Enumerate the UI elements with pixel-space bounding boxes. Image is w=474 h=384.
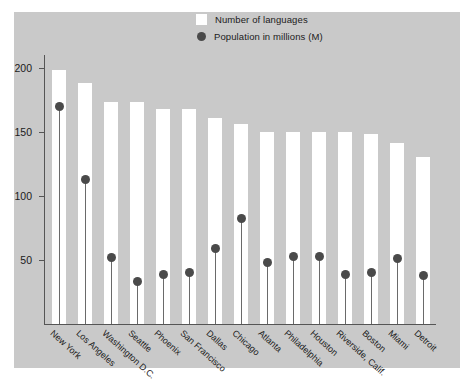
chart-legend: Number of languages Population in millio… (196, 14, 323, 42)
population-dot (107, 253, 116, 262)
population-dot (315, 252, 324, 261)
population-stem (137, 282, 138, 324)
population-dot (263, 258, 272, 267)
y-axis-tick-label: 150 (14, 126, 32, 138)
legend-label-population: Population in millions (M) (214, 31, 323, 42)
legend-dot-icon (197, 32, 206, 41)
chart-root: Number of languages Population in millio… (0, 0, 474, 384)
population-dot (185, 268, 194, 277)
population-stem (345, 274, 346, 324)
y-axis-tick-label: 100 (14, 190, 32, 202)
population-stem (111, 257, 112, 324)
population-stem (163, 274, 164, 324)
population-dot (237, 214, 246, 223)
population-stem (371, 273, 372, 324)
y-axis-tick (39, 68, 45, 69)
y-axis-line (44, 55, 45, 325)
legend-swatch-icon (196, 14, 207, 25)
population-dot (367, 268, 376, 277)
population-dot (341, 270, 350, 279)
population-dot (419, 271, 428, 280)
y-axis-tick-label: 50 (20, 254, 32, 266)
population-stem (241, 219, 242, 324)
y-axis-tick (39, 196, 45, 197)
population-stem (293, 256, 294, 324)
population-stem (85, 179, 86, 324)
population-dot (81, 175, 90, 184)
y-axis-tick-label: 200 (14, 62, 32, 74)
plot-area: 50100150200New YorkLos AngelesWashington… (46, 55, 436, 324)
legend-label-languages: Number of languages (215, 14, 308, 25)
population-stem (267, 263, 268, 324)
population-stem (215, 248, 216, 324)
population-stem (189, 273, 190, 324)
population-dot (55, 102, 64, 111)
legend-item-population: Population in millions (M) (196, 31, 323, 42)
population-stem (319, 256, 320, 324)
population-dot (133, 277, 142, 286)
population-dot (289, 252, 298, 261)
population-dot (159, 270, 168, 279)
population-stem (59, 106, 60, 324)
y-axis-tick (39, 132, 45, 133)
population-dot (393, 254, 402, 263)
population-stem (397, 259, 398, 324)
population-stem (423, 275, 424, 324)
x-axis-line (44, 324, 436, 325)
legend-item-languages: Number of languages (196, 14, 323, 25)
population-dot (211, 244, 220, 253)
y-axis-tick (39, 260, 45, 261)
